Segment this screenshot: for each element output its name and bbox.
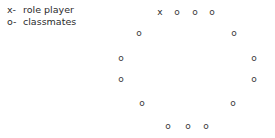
seat-marker-p8: o — [230, 99, 236, 108]
legend-label-role-player: role player — [23, 4, 74, 15]
legend-item-classmates: o- classmates — [7, 16, 76, 28]
seat-marker-p3: o — [192, 8, 198, 17]
seat-marker-p2: o — [174, 8, 180, 17]
seat-marker-p14: o — [118, 54, 124, 63]
seat-marker-p6: o — [251, 54, 257, 63]
seat-marker-p9: o — [203, 122, 209, 131]
seat-marker-p5: o — [231, 29, 237, 38]
seat-marker-p12: o — [139, 99, 145, 108]
diagram-canvas: x- role player o- classmates xoooooooooo… — [0, 0, 275, 138]
seat-marker-p11: o — [165, 122, 171, 131]
seat-marker-p7: o — [251, 75, 257, 84]
legend-key-o: o- — [7, 16, 23, 27]
legend-key-x: x- — [7, 4, 23, 15]
seat-marker-p13: o — [118, 75, 124, 84]
legend-label-classmates: classmates — [23, 16, 76, 27]
seat-marker-p15: o — [136, 29, 142, 38]
legend-item-role-player: x- role player — [7, 4, 76, 16]
seat-marker-p10: o — [185, 122, 191, 131]
seat-marker-p1: x — [157, 8, 162, 17]
seat-marker-p4: o — [209, 8, 215, 17]
legend: x- role player o- classmates — [7, 4, 76, 28]
